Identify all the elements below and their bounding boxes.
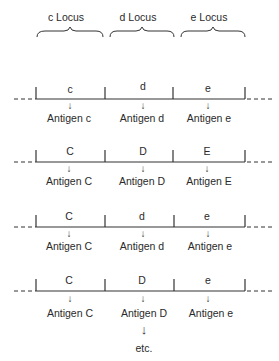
arrow-down-icon: ↓: [206, 229, 211, 239]
arrow-down-icon: ↓: [206, 294, 211, 304]
arrow-down-icon: ↓: [141, 164, 146, 174]
allele-row4-d: D: [138, 275, 146, 286]
arrow-down-icon: ↓: [141, 294, 146, 304]
arrow-down-icon: ↓: [67, 164, 72, 174]
antigen-row2-d: Antigen D: [119, 176, 165, 187]
antigen-row1-c: Antigen c: [47, 113, 91, 124]
locus-braces: [37, 27, 245, 37]
antigen-row2-e: Antigen E: [186, 176, 232, 187]
antigen-row3-c: Antigen C: [46, 241, 92, 252]
antigen-row2-c: Antigen C: [46, 176, 92, 187]
allele-row1-d: d: [140, 81, 146, 92]
arrow-down-icon: ↓: [206, 101, 211, 111]
antigen-row4-d: Antigen D: [121, 308, 167, 319]
antigen-row4-e: Antigen e: [189, 308, 233, 319]
arrow-down-icon: ↓: [205, 164, 210, 174]
locus-label-c: c Locus: [48, 12, 84, 23]
allele-row2-e: E: [203, 146, 210, 157]
locus-label-d: d Locus: [120, 12, 157, 23]
allele-row2-d: D: [139, 146, 147, 157]
brace-d-locus: [110, 27, 174, 37]
antigen-row3-d: Antigen d: [120, 241, 164, 252]
antigen-row4-c: Antigen C: [47, 308, 93, 319]
arrow-down-icon: ↓: [141, 323, 148, 336]
allele-row3-d: d: [139, 211, 145, 222]
antigen-row3-e: Antigen e: [188, 241, 232, 252]
brace-c-locus: [37, 27, 103, 37]
allele-row2-c: C: [66, 146, 74, 157]
arrow-down-icon: ↓: [67, 229, 72, 239]
allele-row4-c: C: [65, 275, 73, 286]
arrow-down-icon: ↓: [141, 229, 146, 239]
arrow-down-icon: ↓: [141, 101, 146, 111]
brace-e-locus: [181, 27, 245, 37]
etc-label: etc.: [136, 343, 153, 354]
arrow-down-icon: ↓: [68, 101, 73, 111]
antigen-row1-e: Antigen e: [187, 113, 231, 124]
allele-row3-c: C: [65, 211, 73, 222]
antigen-row1-d: Antigen d: [120, 113, 164, 124]
locus-label-e: e Locus: [191, 12, 228, 23]
arrow-down-icon: ↓: [68, 294, 73, 304]
allele-row1-e: e: [205, 83, 211, 94]
allele-row1-c: c: [67, 84, 72, 95]
allele-row3-e: e: [204, 211, 210, 222]
allele-row4-e: e: [205, 275, 211, 286]
